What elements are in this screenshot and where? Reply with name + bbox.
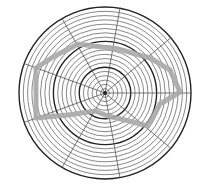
center-hub: [103, 91, 107, 95]
spoke: [105, 93, 120, 178]
radar-chart: [0, 0, 212, 194]
